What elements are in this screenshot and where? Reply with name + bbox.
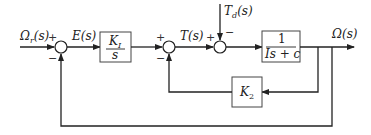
sum2-plus-sign: +	[156, 31, 165, 44]
sum3-minus-sign: −	[225, 26, 234, 39]
disturbance-label: Td(s)	[224, 4, 253, 20]
summing-junction-2	[163, 41, 175, 53]
sum3-plus-sign: +	[206, 31, 215, 44]
plant-denominator: Is + c	[264, 47, 301, 61]
integral-gain-denominator: s	[112, 48, 118, 62]
inner-feedback-return-wire	[169, 54, 232, 92]
plant-numerator: 1	[278, 32, 286, 46]
sum1-minus-sign: −	[48, 52, 57, 65]
error-label: E(s)	[71, 29, 97, 43]
sum2-minus-sign: −	[156, 52, 165, 65]
block-diagram: Ωr(s) + − E(s) KI s + − T(s) + Td(s) − 1…	[0, 0, 371, 135]
sum1-plus-sign: +	[48, 31, 57, 44]
output-label: Ω(s)	[331, 27, 358, 41]
summing-junction-1	[55, 41, 67, 53]
torque-label: T(s)	[180, 29, 204, 43]
reference-label: Ωr(s)	[19, 29, 50, 45]
summing-junction-3	[214, 41, 226, 53]
